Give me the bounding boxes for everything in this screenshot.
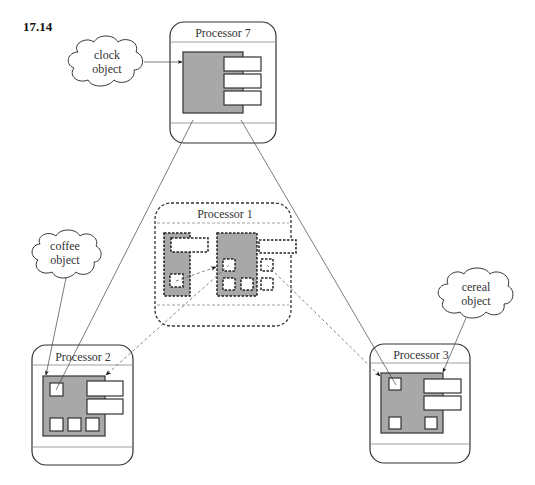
cereal-object-cloud: cereal object — [438, 268, 513, 318]
clock-method-slot-3 — [224, 91, 261, 105]
cereal-cell-top-left — [389, 378, 401, 390]
processor-2-label: Processor 2 — [55, 350, 111, 364]
p1-main-object-slot — [259, 240, 296, 253]
p1-main-cell-bottom-3 — [261, 278, 273, 290]
processor-1: Processor 1 — [155, 203, 296, 326]
processor-3-label: Processor 3 — [393, 348, 449, 362]
coffee-cloud-line2: object — [50, 253, 80, 267]
cereal-cloud-line1: cereal — [462, 280, 491, 294]
cereal-cloud-line2: object — [461, 294, 491, 308]
coffee-cell-bottom-2 — [68, 418, 81, 431]
clock-method-slot-2 — [224, 74, 261, 88]
processor-1-label: Processor 1 — [197, 207, 253, 221]
p1-main-cell-bottom-1 — [223, 278, 235, 290]
clock-method-slot-1 — [224, 57, 261, 71]
cereal-method-slot-2 — [424, 396, 461, 410]
coffee-object-cloud: coffee object — [32, 230, 101, 278]
coffee-cell-bottom-3 — [86, 418, 99, 431]
p1-main-cell-bottom-2 — [241, 278, 253, 290]
coffee-cell-bottom-1 — [50, 418, 63, 431]
processor-7-label: Processor 7 — [195, 26, 251, 40]
coffee-cloud-line1: coffee — [50, 239, 80, 253]
coffee-method-slot-1 — [87, 381, 123, 396]
processor-7: Processor 7 — [170, 22, 276, 143]
coffee-method-slot-2 — [87, 399, 123, 414]
clock-object-cloud: clock object — [68, 36, 142, 86]
clock-cloud-line1: clock — [94, 48, 120, 62]
cereal-method-slot-1 — [424, 379, 461, 393]
processor-3: Processor 3 — [370, 344, 470, 463]
cereal-cell-bottom-left — [389, 417, 401, 429]
p1-left-object-slot — [171, 238, 208, 252]
cereal-cell-bottom-right — [425, 417, 437, 429]
processor-2: Processor 2 — [32, 345, 133, 465]
clock-cloud-line2: object — [92, 62, 122, 76]
